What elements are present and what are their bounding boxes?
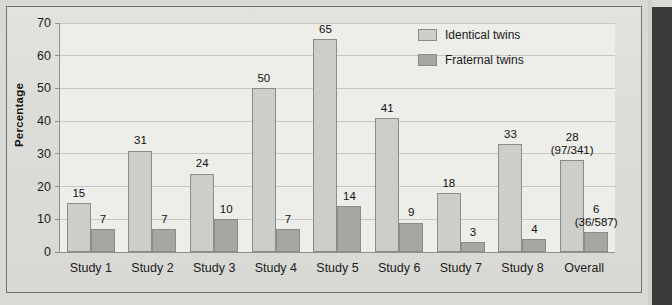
bar-fraternal[interactable]: 9: [399, 223, 423, 252]
bar-identical[interactable]: 18: [437, 193, 461, 252]
plot-area: 010203040506070157Study 1317Study 22410S…: [59, 23, 615, 253]
bar-fraternal[interactable]: 7: [152, 229, 176, 252]
y-axis-tick-label: 20: [37, 180, 51, 194]
bar-label: 24: [196, 157, 209, 170]
bar-group: 507Study 4: [245, 23, 307, 252]
bar-label: 18: [442, 177, 455, 190]
bar-identical[interactable]: 50: [252, 88, 276, 252]
y-axis-tick-label: 50: [37, 81, 51, 95]
bar-label: 15: [72, 187, 85, 200]
x-axis-tick-label: Study 3: [193, 261, 235, 275]
legend-swatch-icon-identical: [418, 29, 437, 41]
bar-label: 7: [285, 213, 291, 226]
bar-label: 41: [381, 102, 394, 115]
bar-label: 65: [319, 23, 332, 36]
legend-swatch-icon-fraternal: [418, 54, 437, 66]
bar-label: 7: [161, 213, 167, 226]
bar-identical[interactable]: 65: [313, 39, 337, 252]
bar-group: 2410Study 3: [183, 23, 245, 252]
bar-fraternal[interactable]: 4: [522, 239, 546, 252]
x-axis-tick-label: Study 8: [501, 261, 543, 275]
y-axis-tick-label: 40: [37, 114, 51, 128]
y-axis-tick-label: 30: [37, 147, 51, 161]
bar-fraction-label: (97/341): [551, 144, 594, 157]
bar-value-label: 28: [551, 131, 594, 144]
x-axis-tick-label: Study 1: [70, 261, 112, 275]
chart-frame: Percentage 010203040506070157Study 1317S…: [6, 6, 642, 293]
bar-fraternal[interactable]: 6(36/587): [584, 232, 608, 252]
bar-fraction-label: (36/587): [575, 216, 618, 229]
bar-fraternal[interactable]: 7: [276, 229, 300, 252]
bar-group: 157Study 1: [60, 23, 122, 252]
bar-label: 10: [220, 203, 233, 216]
bar-identical[interactable]: 33: [498, 144, 522, 252]
x-axis-tick-label: Overall: [564, 261, 604, 275]
bar-label: 28(97/341): [551, 131, 594, 157]
bar-label: 9: [408, 206, 414, 219]
bar-label: 33: [504, 128, 517, 141]
legend-label-identical: Identical twins: [445, 28, 520, 42]
x-axis-tick-label: Study 4: [255, 261, 297, 275]
x-axis-tick-label: Study 2: [131, 261, 173, 275]
bar-identical[interactable]: 41: [375, 118, 399, 252]
bar-group: 317Study 2: [122, 23, 184, 252]
bar-label: 31: [134, 134, 147, 147]
y-axis-title: Percentage: [13, 83, 25, 147]
bar-group: 6514Study 5: [307, 23, 369, 252]
bar-identical[interactable]: 24: [190, 174, 214, 253]
chart-legend: Identical twins Fraternal twins: [418, 28, 524, 67]
bar-label: 3: [470, 226, 476, 239]
bar-fraternal[interactable]: 14: [337, 206, 361, 252]
bar-label: 14: [343, 190, 356, 203]
bar-label: 7: [100, 213, 106, 226]
bar-fraternal[interactable]: 7: [91, 229, 115, 252]
y-axis-tick-label: 70: [37, 16, 51, 30]
y-axis-tick-label: 0: [44, 245, 51, 259]
bar-label: 50: [257, 72, 270, 85]
x-axis-tick-label: Study 7: [440, 261, 482, 275]
bar-value-label: 6: [575, 203, 618, 216]
bar-group: 28(97/341)6(36/587)Overall: [553, 23, 615, 252]
figure-root: Percentage 010203040506070157Study 1317S…: [0, 0, 672, 305]
y-axis-tick-label: 60: [37, 49, 51, 63]
page-edge-shadow: [652, 7, 672, 305]
legend-label-fraternal: Fraternal twins: [445, 53, 524, 67]
bar-identical[interactable]: 15: [67, 203, 91, 252]
bar-fraternal[interactable]: 3: [461, 242, 485, 252]
y-axis-tick-label: 10: [37, 212, 51, 226]
bar-identical[interactable]: 31: [128, 151, 152, 252]
bar-fraternal[interactable]: 10: [214, 219, 238, 252]
bar-label: 6(36/587): [575, 203, 618, 229]
legend-item-identical-twins: Identical twins: [418, 28, 524, 42]
x-axis-tick-label: Study 6: [378, 261, 420, 275]
bar-label: 4: [531, 223, 537, 236]
x-axis-tick-label: Study 5: [316, 261, 358, 275]
legend-item-fraternal-twins: Fraternal twins: [418, 53, 524, 67]
